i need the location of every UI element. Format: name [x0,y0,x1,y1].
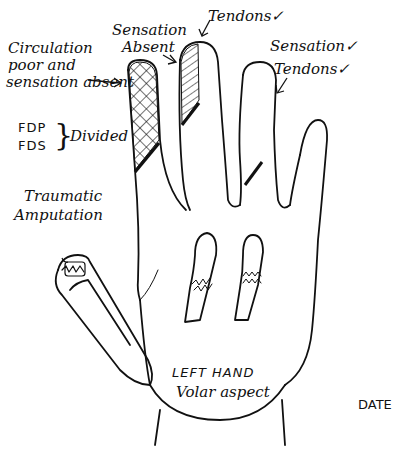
middle-tendons-text: Tendons [208,7,271,25]
ring-sensation-text: Sensation [270,37,345,55]
date-label: DATE [358,397,392,412]
label-divided: Divided [70,128,128,144]
diagram-title: LEFT HAND [172,365,254,380]
middle-tendon-sheath [235,235,263,320]
label-index-line2: poor and [8,57,76,73]
label-sensation-absent-line2: Absent [122,39,175,55]
check-icon: ✓ [271,7,284,25]
middle-diagonal-hatch-area [181,44,199,124]
label-index-line1: Circulation [8,40,93,56]
label-traumatic: Traumatic [24,188,102,204]
check-icon: ✓ [337,60,350,78]
label-middle-tendons: Tendons✓ [208,8,284,24]
check-icon: ✓ [345,37,358,55]
label-fdp: FDP [18,120,46,135]
label-sensation-absent-line1: Sensation [112,22,187,38]
label-ring-tendons: Tendons✓ [274,61,350,77]
ring-tendon-cut-mark [245,162,262,185]
label-fds: FDS [18,138,47,153]
index-tendon-sheath [185,233,216,322]
ring-tendons-text: Tendons [274,60,337,78]
label-ring-sensation: Sensation✓ [270,38,358,54]
diagram-subtitle: Volar aspect [176,384,270,400]
label-index-line3: sensation absent [6,74,134,90]
label-amputation: Amputation [14,207,103,223]
little-finger-outline [285,120,327,385]
